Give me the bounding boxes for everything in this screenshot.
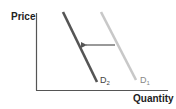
curve-label-d2: D2 [100, 76, 110, 86]
curve-label-d1: D1 [140, 76, 150, 86]
curve-label-d1-sub: 1 [147, 80, 150, 86]
x-axis-label: Quantity [133, 94, 174, 104]
demand-curve-d2 [63, 12, 97, 82]
y-axis-label: Price [11, 12, 35, 22]
demand-curve-d1 [101, 12, 136, 80]
curve-label-d2-sub: 2 [107, 80, 110, 86]
